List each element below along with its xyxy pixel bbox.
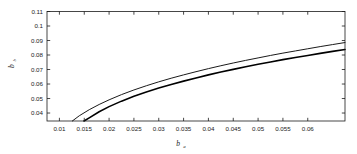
y-tick-label: 0.04 (31, 109, 44, 116)
y-tick-label: 0.1 (34, 22, 43, 29)
y-axis-title-base: b (7, 64, 16, 68)
x-tick-label: 0.035 (176, 125, 192, 132)
y-axis-tick-labels: 0.040.050.060.070.080.090.10.11 (31, 8, 44, 117)
x-axis-title-base: b (176, 139, 180, 148)
x-tick-label: 0.03 (153, 125, 166, 132)
plot-area-background (47, 12, 345, 122)
y-axis-title-subscript: b (12, 58, 17, 61)
x-tick-label: 0.05 (252, 125, 265, 132)
x-axis-title-subscript: a (183, 144, 186, 149)
x-tick-label: 0.02 (103, 125, 116, 132)
y-tick-label: 0.09 (31, 37, 44, 44)
y-tick-label: 0.08 (31, 51, 44, 58)
x-tick-label: 0.025 (126, 125, 142, 132)
x-tick-label: 0.055 (275, 125, 291, 132)
y-tick-label: 0.06 (31, 80, 44, 87)
x-tick-label: 0.045 (226, 125, 242, 132)
y-axis-title: b b (7, 58, 17, 67)
y-tick-label: 0.05 (31, 95, 44, 102)
x-tick-label: 0.015 (77, 125, 93, 132)
x-tick-label: 0.06 (302, 125, 315, 132)
x-axis-title: b a (176, 139, 186, 149)
y-tick-label: 0.11 (31, 8, 43, 15)
line-chart: 0.010.0150.020.0250.030.0350.040.0450.05… (0, 0, 357, 154)
y-tick-label: 0.07 (31, 66, 44, 73)
x-tick-label: 0.01 (53, 125, 66, 132)
x-axis-tick-labels: 0.010.0150.020.0250.030.0350.040.0450.05… (53, 125, 314, 132)
figure-canvas: 0.010.0150.020.0250.030.0350.040.0450.05… (0, 0, 357, 154)
x-tick-label: 0.04 (202, 125, 215, 132)
